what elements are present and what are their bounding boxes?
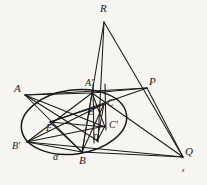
point-label-R: R xyxy=(100,3,107,14)
point-label-Bp: B' xyxy=(12,141,20,151)
point-label-P: P xyxy=(149,76,156,87)
figure-canvas xyxy=(0,0,207,185)
segment-B-to-Q xyxy=(82,152,183,157)
point-label-C: C xyxy=(107,98,114,108)
segment-vert-right xyxy=(105,84,106,130)
point-label-a: α xyxy=(53,152,58,162)
point-label-D: D xyxy=(93,134,99,142)
point-label-E: E xyxy=(88,107,94,117)
point-label-B: B xyxy=(79,155,86,166)
segment-P-to-Q xyxy=(147,88,183,157)
point-label-Ap: A' xyxy=(85,78,93,88)
segment-B-to-Ap xyxy=(82,93,92,152)
point-label-F: F xyxy=(46,123,52,133)
segment-Bp-to-Q xyxy=(27,142,183,157)
point-label-A: A xyxy=(14,83,21,94)
point-label-z: z xyxy=(182,167,184,173)
geometry-figure: RPQAA'BB'CC'DEFαz xyxy=(0,0,207,185)
point-label-Cp: C' xyxy=(109,120,118,130)
point-label-Q: Q xyxy=(185,146,193,157)
segments-group xyxy=(25,22,183,157)
